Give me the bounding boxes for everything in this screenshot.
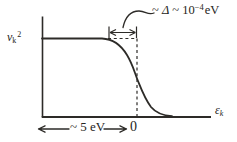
gap-annotation-unit: eV [205,3,220,17]
figure-drawing [0,0,237,142]
gap-annotation-lead: ~ [152,3,162,17]
y-axis-label-subscript: k [12,36,16,45]
gap-dimension-arrow [110,30,136,36]
gap-annotation-exponent: −4 [195,2,204,12]
y-axis-label: vk2 [7,31,21,45]
x-axis-label-subscript: k [220,109,224,118]
y-axis-label-superscript: 2 [17,30,21,39]
gap-annotation: ~ Δ ~ 10−4eV [152,3,219,17]
gap-annotation-mid: ~ 10 [169,3,195,17]
annotation-leader-line [123,11,154,28]
left-span-arrow [39,126,70,132]
occupation-curve [42,39,172,117]
zero-label: 0 [130,120,137,134]
right-span-arrow [104,126,127,132]
bandwidth-label: ~ 5 eV [70,120,105,134]
figure: vk2 εk ~ Δ ~ 10−4eV ~ 5 eV 0 [0,0,237,142]
x-axis-label: εk [215,104,223,118]
